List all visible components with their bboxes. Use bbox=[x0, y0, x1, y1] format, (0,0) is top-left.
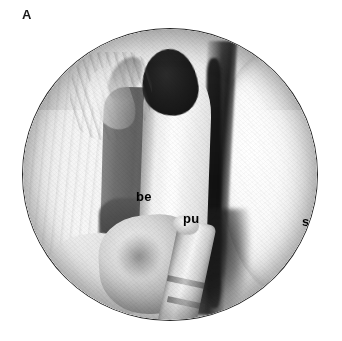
label-be: be bbox=[136, 190, 152, 203]
label-s: s bbox=[302, 215, 309, 228]
label-pu: pu bbox=[183, 212, 199, 225]
endoscopic-field: be pu s Hinde bbox=[22, 28, 318, 321]
field-vignette bbox=[23, 29, 317, 320]
panel-letter: A bbox=[22, 8, 32, 21]
endoscopic-field-inner: be pu s Hinde bbox=[23, 29, 317, 320]
